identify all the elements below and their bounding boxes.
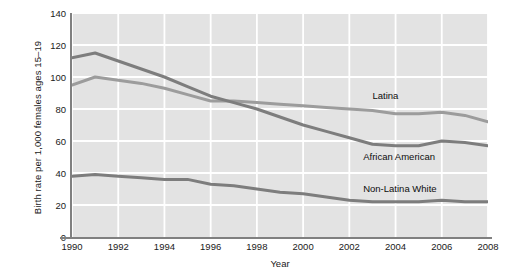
y-axis-tick-label: 100 <box>4 72 66 83</box>
series-line <box>72 53 488 146</box>
x-axis-tick-label: 1990 <box>52 241 92 252</box>
x-axis-tick-label: 2004 <box>376 241 416 252</box>
plot-area <box>72 13 488 237</box>
x-axis-tick-label: 1996 <box>191 241 231 252</box>
x-axis-tick-label: 2008 <box>468 241 508 252</box>
y-axis-tick-label: 120 <box>4 40 66 51</box>
x-axis-tick-label: 1992 <box>98 241 138 252</box>
x-axis-tick-label: 1998 <box>237 241 277 252</box>
series-inline-label: Non-Latina White <box>363 183 436 194</box>
y-axis-line <box>70 13 72 237</box>
y-axis-tick-label: 20 <box>4 200 66 211</box>
x-axis-tick-label: 2006 <box>422 241 462 252</box>
series-line <box>72 77 488 122</box>
y-axis-tick-label: 140 <box>4 8 66 19</box>
x-axis-line <box>60 237 492 239</box>
series-lines <box>72 53 488 202</box>
horizontal-gridlines <box>72 13 488 237</box>
x-axis-title: Year <box>72 258 488 269</box>
series-inline-label: African American <box>363 151 435 162</box>
x-axis-tick-label: 1994 <box>144 241 184 252</box>
y-axis-tick-label: 60 <box>4 136 66 147</box>
y-axis-tick-label: 80 <box>4 104 66 115</box>
y-axis-tick-label: 40 <box>4 168 66 179</box>
plot-svg <box>72 13 488 237</box>
x-axis-tick-label: 2000 <box>283 241 323 252</box>
x-axis-tick-label: 2002 <box>329 241 369 252</box>
vertical-gridlines <box>72 13 488 237</box>
series-inline-label: Latina <box>372 90 398 101</box>
y-axis-tick-labels: 020406080100120140 <box>0 0 66 279</box>
birth-rate-line-chart: Birth rate per 1,000 females ages 15–19 … <box>0 0 508 279</box>
